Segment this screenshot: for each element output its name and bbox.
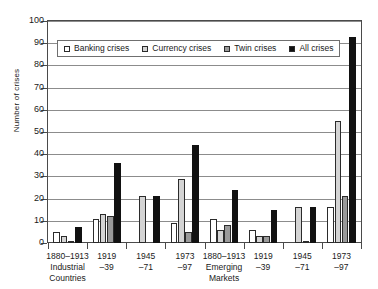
bar-1-0 [61,236,68,243]
bar-0-7 [327,207,334,243]
bar-3-0 [75,227,82,243]
legend-swatch-icon-3 [289,46,295,52]
legend-swatch-icon-2 [224,46,230,52]
bar-1-7 [335,121,342,243]
bar-2-6 [303,241,310,243]
x-tick-4 [205,243,206,249]
x-group-label-line: Countries [40,273,95,284]
bar-3-5 [271,210,278,243]
bar-0-5 [249,230,256,243]
bar-2-0 [68,241,75,243]
bar-0-0 [53,232,60,243]
bar-3-2 [153,196,160,243]
x-tick-1 [87,243,88,249]
y-tick-label-30: 30 [4,171,44,180]
y-tick-label-100: 100 [4,16,44,25]
y-tick-label-0: 0 [4,238,44,247]
bar-3-1 [114,163,121,243]
y-tick-label-70: 70 [4,83,44,92]
bar-1-2 [139,196,146,243]
y-tick-label-50: 50 [4,127,44,136]
legend-swatch-icon-0 [64,46,70,52]
x-tick-7 [322,243,323,249]
bar-2-5 [263,236,270,243]
chart-legend: Banking crisesCurrency crisesTwin crises… [57,40,340,57]
bar-3-4 [232,190,239,243]
bar-3-3 [192,145,199,243]
x-tick-3 [165,243,166,249]
bar-1-6 [295,207,302,243]
legend-item-3: All crises [289,44,333,53]
legend-label: All crises [299,44,333,53]
y-axis-title: Number of crises [12,41,21,161]
bar-3-7 [349,37,356,243]
y-tick-label-20: 20 [4,194,44,203]
y-tick-label-10: 10 [4,216,44,225]
x-tick-2 [126,243,127,249]
y-tick-label-40: 40 [4,149,44,158]
bar-2-1 [107,216,114,243]
legend-item-2: Twin crises [224,44,276,53]
legend-label: Twin crises [234,44,276,53]
bar-2-4 [224,225,231,243]
bar-1-3 [178,179,185,243]
bar-0-3 [171,223,178,243]
legend-label: Banking crises [74,44,129,53]
y-tick-label-90: 90 [4,38,44,47]
bar-0-1 [93,219,100,243]
x-group-label-line: –97 [314,262,369,273]
bar-1-4 [217,230,224,243]
x-group-label-7: 1973–97 [314,251,369,273]
x-group-label-line: Markets [197,273,252,284]
y-tick-label-80: 80 [4,60,44,69]
bar-2-3 [185,232,192,243]
crises-bar-chart: Number of crises 0102030405060708090100 … [0,0,378,289]
x-tick-8 [361,243,362,249]
legend-label: Currency crises [152,44,211,53]
x-tick-6 [283,243,284,249]
legend-swatch-icon-1 [142,46,148,52]
bar-0-4 [210,219,217,243]
legend-item-0: Banking crises [64,44,129,53]
y-tick-label-60: 60 [4,105,44,114]
x-group-label-line: 1973 [314,251,369,262]
bar-1-5 [256,236,263,243]
x-tick-0 [48,243,49,249]
x-tick-5 [244,243,245,249]
bar-2-7 [342,196,349,243]
legend-item-1: Currency crises [142,44,211,53]
bar-3-6 [310,207,317,243]
bar-1-1 [100,214,107,243]
